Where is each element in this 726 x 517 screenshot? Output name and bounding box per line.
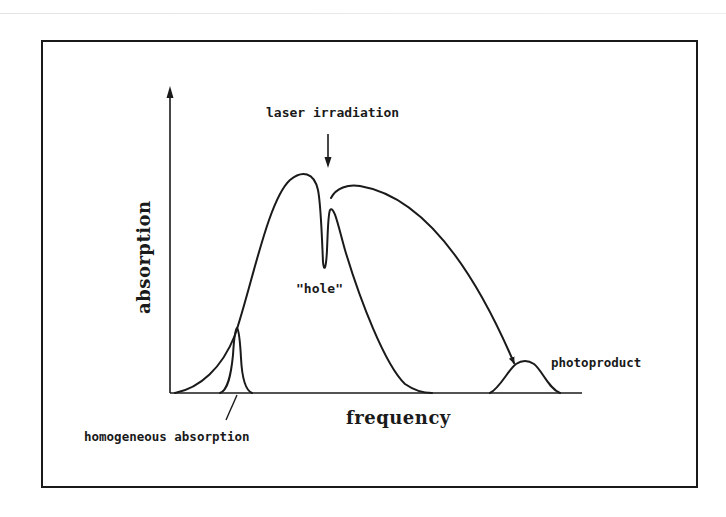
photoproduct-label: photoproduct — [551, 355, 641, 370]
y-axis-label: absorption — [133, 200, 154, 314]
hole-label: "hole" — [296, 281, 343, 296]
x-axis-label: frequency — [346, 407, 451, 428]
y-axis-arrow-icon — [167, 86, 174, 98]
homogeneous-absorption-label: homogeneous absorption — [84, 429, 250, 444]
laser-irradiation-label: laser irradiation — [266, 105, 399, 120]
homogeneous-leader-line — [226, 395, 237, 420]
homogeneous-line — [220, 328, 252, 393]
transfer-arrow — [331, 186, 514, 364]
photoproduct-band — [490, 361, 560, 393]
laser-arrow-head-icon — [325, 157, 332, 168]
hole-burning-diagram: laser irradiation "hole" photoproduct ho… — [0, 0, 726, 517]
